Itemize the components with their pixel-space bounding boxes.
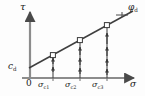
marker-sigma-c1 [50, 53, 55, 58]
sigma-subscript-1: c1 [43, 84, 49, 90]
marker-sigma-c3 [104, 23, 109, 28]
sigma-axis-label: σ [130, 80, 136, 89]
friction-angle-label: φd [128, 3, 138, 12]
tick-label-sigma-c2: σc2 [65, 81, 76, 89]
marker-sigma-c2 [77, 38, 82, 43]
arrow-stack-sigma-c1 [50, 53, 55, 78]
arrow-stack-sigma-c3 [104, 23, 109, 78]
sigma-subscript-2: c2 [70, 84, 76, 90]
phi-subscript: d [134, 7, 138, 13]
tick-label-sigma-c3: σc3 [92, 81, 103, 89]
tau-axis-label: τ [20, 2, 26, 12]
mohr-coulomb-failure-envelope-figure: τ σ 0 cd φd σc1 σc2 σc3 [0, 0, 145, 96]
tick-label-sigma-c1: σc1 [38, 81, 49, 89]
sigma-subscript-3: c3 [97, 84, 103, 90]
arrow-stack-sigma-c2 [77, 38, 82, 78]
cohesion-intercept-label: cd [8, 62, 17, 71]
origin-label: 0 [26, 79, 32, 88]
cohesion-subscript: d [13, 66, 17, 72]
